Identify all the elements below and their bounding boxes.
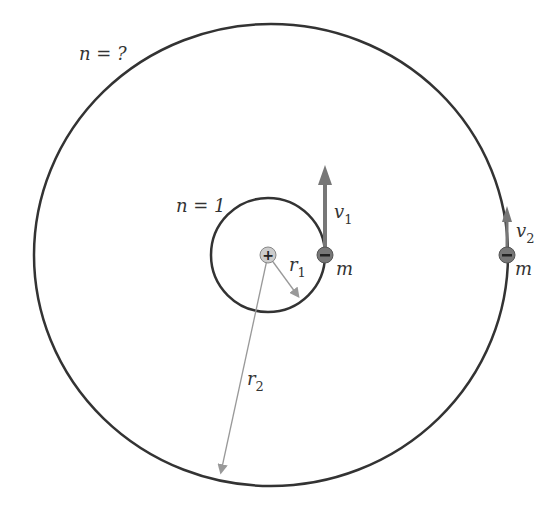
inner-electron — [317, 247, 333, 263]
radius-r2-arrow — [221, 255, 268, 472]
outer-electron — [499, 247, 515, 263]
outer-mass-label: m — [515, 258, 532, 279]
outer-orbit-label: n = ? — [79, 43, 127, 64]
bohr-diagram: + n = ? n = 1 v1 v2 m m r1 r2 — [0, 0, 559, 509]
svg-text:+: + — [262, 247, 274, 263]
r2-label: r2 — [247, 368, 264, 394]
r1-label: r1 — [289, 254, 306, 280]
velocity-v1-arrowhead — [318, 165, 332, 185]
v2-label: v2 — [516, 220, 534, 246]
nucleus: + — [260, 247, 276, 263]
inner-orbit-label: n = 1 — [176, 195, 226, 216]
inner-mass-label: m — [336, 258, 353, 279]
v1-label: v1 — [334, 201, 352, 227]
